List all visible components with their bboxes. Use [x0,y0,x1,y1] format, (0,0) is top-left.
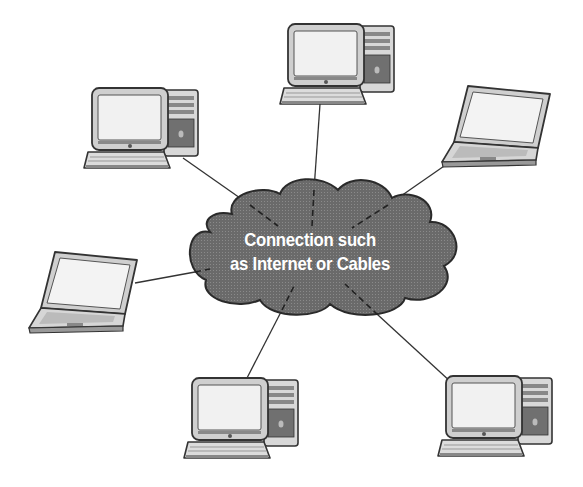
cloud-label-line2: as Internet or Cables [204,252,415,276]
link-desktop-bottom-center [247,310,282,378]
desktop-computer-icon [438,376,552,456]
desktop-computer-icon [184,378,298,458]
network-diagram: Connection such as Internet or Cables [0,0,583,487]
link-desktop-bottom-right [378,315,452,383]
link-laptop-left [135,272,195,283]
cloud-label: Connection such as Internet or Cables [204,228,415,276]
laptop-icon [442,86,550,167]
laptop-icon [29,252,137,333]
cloud-label-line1: Connection such [204,228,415,252]
link-desktop-top [314,104,320,190]
desktop-computer-icon [84,88,198,168]
desktop-computer-icon [280,24,394,104]
